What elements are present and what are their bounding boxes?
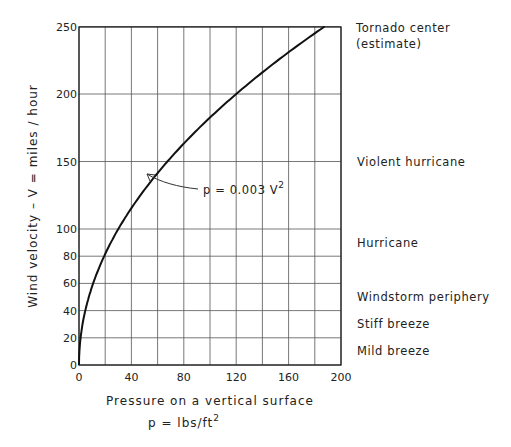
wind-pressure-chart: 020406080100150200250 04080120160200 p =…	[0, 0, 511, 447]
label-mild-breeze: Mild breeze	[357, 344, 430, 358]
label-hurricane: Hurricane	[357, 236, 419, 250]
x-tick-label: 40	[124, 371, 138, 384]
y-axis-ticks: 020406080100150200250	[56, 21, 77, 373]
label-stiff-breeze: Stiff breeze	[357, 317, 430, 331]
x-tick-label: 120	[226, 371, 247, 384]
x-tick-label: 0	[76, 371, 83, 384]
x-axis-subtitle: p = lbs/ft2	[148, 413, 220, 430]
y-tick-label: 80	[63, 250, 77, 263]
x-axis-title: Pressure on a vertical surface	[106, 394, 314, 408]
label-tornado-estimate: (estimate)	[356, 37, 422, 51]
x-tick-label: 200	[331, 371, 352, 384]
y-tick-label: 150	[56, 156, 77, 169]
label-violent-hurricane: Violent hurricane	[357, 155, 466, 169]
y-tick-label: 20	[63, 332, 77, 345]
x-axis-ticks: 04080120160200	[76, 371, 352, 384]
y-tick-label: 200	[56, 88, 77, 101]
y-axis-title: Wind velocity – V = miles / hour	[26, 84, 40, 308]
equation-label: p = 0.003 V2	[203, 180, 285, 197]
label-windstorm-periphery: Windstorm periphery	[357, 290, 490, 304]
y-tick-label: 60	[63, 277, 77, 290]
y-tick-label: 250	[56, 21, 77, 34]
label-tornado-center: Tornado center	[355, 21, 450, 35]
pressure-curve	[79, 27, 325, 366]
y-tick-label: 40	[63, 305, 77, 318]
x-tick-label: 160	[278, 371, 299, 384]
x-tick-label: 80	[177, 371, 191, 384]
y-tick-label: 100	[56, 223, 77, 236]
